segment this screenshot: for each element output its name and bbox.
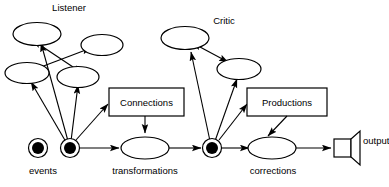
connections-box-label: Connections <box>120 97 173 108</box>
link-productions-to-corrections <box>268 116 287 136</box>
speaker-icon-cone <box>351 131 360 165</box>
events-node-inner <box>32 142 44 154</box>
corrections-label: corrections <box>250 165 297 176</box>
events-label: events <box>29 165 57 176</box>
architecture-diagram: Listener Critic Connections Productions … <box>0 0 389 187</box>
source-node-inner <box>64 142 76 154</box>
speaker-icon-body <box>334 139 351 157</box>
listener-ellipse-right <box>81 35 123 56</box>
transformations-ellipse <box>121 137 169 159</box>
critic-group-label: Critic <box>213 15 235 26</box>
critic-ellipse-right <box>217 59 261 80</box>
diagram-canvas: Listener Critic Connections Productions … <box>0 0 389 187</box>
critic-ellipse-top <box>161 27 209 50</box>
listener-ellipse-left <box>5 63 49 84</box>
listener-ellipse-top <box>13 23 61 46</box>
corrections-ellipse <box>248 137 296 159</box>
output-label: output <box>363 135 389 146</box>
listener-group-label: Listener <box>52 2 86 13</box>
transformations-label: transformations <box>112 165 178 176</box>
link-source-to-connections <box>76 104 108 140</box>
link-source-to-listener-c <box>31 82 66 142</box>
state-node-inner <box>206 142 218 154</box>
link-critic-a-b <box>200 47 228 62</box>
listener-ellipse-mid <box>57 67 99 88</box>
link-state-to-productions <box>219 104 247 140</box>
link-state-to-critic-a <box>191 52 210 141</box>
productions-box-label: Productions <box>262 97 312 108</box>
link-source-to-listener-d <box>71 85 78 141</box>
